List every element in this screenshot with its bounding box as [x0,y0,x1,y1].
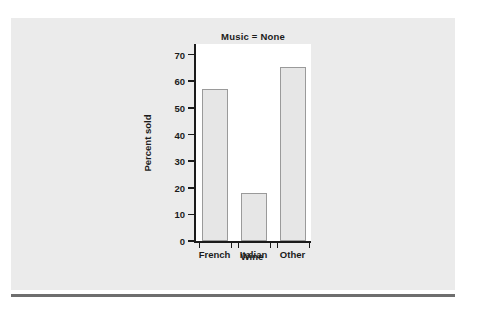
x-axis-title: Wine [241,251,264,262]
x-tick-mark [309,243,311,248]
y-tick-mark [188,107,194,109]
y-axis-title: Percent sold [142,114,153,171]
y-tick-label: 0 [180,236,185,247]
y-tick-label: 60 [174,76,185,87]
y-tick-mark [188,54,194,56]
x-tick-label: Other [280,249,305,260]
y-tick-mark [188,214,194,216]
bar [280,67,306,241]
y-tick-mark [188,160,194,162]
x-tick-mark [238,243,240,248]
x-tick-label: French [199,249,231,260]
y-tick-label: 30 [174,156,185,167]
y-tick-label: 40 [174,129,185,140]
x-tick-mark [199,243,201,248]
chart-title: Music = None [194,30,312,44]
y-tick-label: 50 [174,102,185,113]
y-tick-mark [188,187,194,189]
x-axis-spine [194,241,311,243]
y-tick-mark [188,240,194,242]
y-tick-label: 70 [174,49,185,60]
bar [241,193,267,241]
x-tick-mark [231,243,233,248]
plot-area: Percent sold 010203040506070 FrenchItali… [194,44,311,243]
bar-chart: Music = None Percent sold 01020304050607… [194,30,312,243]
x-tick-mark [277,243,279,248]
y-tick-mark [188,134,194,136]
figure-bottom-rule [11,294,455,297]
x-tick-mark [270,243,272,248]
y-axis-spine [194,44,196,243]
bar [202,89,228,241]
y-tick-mark [188,80,194,82]
y-tick-label: 20 [174,182,185,193]
y-tick-label: 10 [174,209,185,220]
